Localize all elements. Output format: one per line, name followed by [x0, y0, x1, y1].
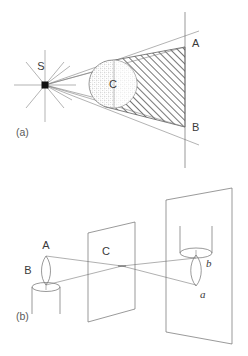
- figure-canvas: S C A B (a): [0, 0, 248, 356]
- label-flame-top-a: A: [42, 239, 50, 251]
- optics-figure: S C A B (a): [0, 0, 248, 356]
- panel-b-group: A B C b a (b): [16, 188, 232, 344]
- label-image-top-b: b: [206, 257, 212, 269]
- label-source-s: S: [37, 60, 44, 72]
- ray-b-to-pinhole: [46, 266, 122, 285]
- image-screen: [166, 188, 232, 344]
- ray-a-to-pinhole: [46, 256, 122, 266]
- label-pinhole-c: C: [102, 245, 110, 257]
- source-ray-inner-lower: [45, 85, 92, 97]
- label-image-bottom-a: a: [200, 288, 206, 300]
- aperture-screen: [88, 222, 135, 322]
- panel-label-a: (a): [16, 126, 29, 138]
- candle-flame: [42, 256, 51, 285]
- panel-a-group: S C A B (a): [14, 12, 200, 168]
- panel-label-b: (b): [16, 310, 29, 322]
- label-umbra-top-a: A: [192, 37, 200, 49]
- label-flame-base-b: B: [24, 264, 31, 276]
- label-umbra-bottom-b: B: [192, 121, 199, 133]
- ray-pinhole-to-b: [122, 258, 196, 266]
- source-point: [42, 82, 49, 89]
- source-ray-inner-upper: [45, 72, 92, 85]
- inverted-candle-image: [180, 226, 212, 286]
- inverted-flame: [191, 255, 202, 286]
- ray-pinhole-to-a: [122, 266, 196, 285]
- label-sphere-c: C: [109, 78, 117, 90]
